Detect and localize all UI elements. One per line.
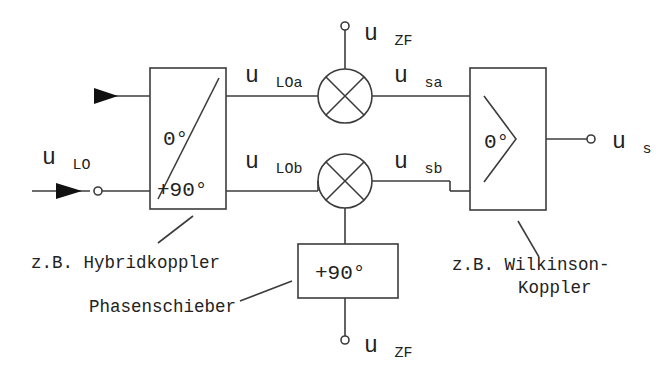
signal-label-zf-upper: u ZF: [364, 21, 412, 50]
signal-label-loa: u LOa: [245, 63, 302, 92]
hybrid-coupler-label-top: 0°: [163, 128, 188, 151]
signal-label-sb: u sb: [394, 149, 442, 178]
block-diagram-canvas: 0° +90° 0° +90° u LO u LOa u LOb u ZF u …: [0, 0, 671, 369]
signal-label-lob: u LOb: [245, 149, 302, 178]
hybrid-coupler-label-bottom: +90°: [157, 179, 207, 202]
input-arrow-lo-icon: [56, 183, 82, 199]
caption-hybrid-coupler: z.B. Hybridkoppler: [31, 253, 220, 273]
signal-label-lo-input: u LO: [42, 145, 90, 174]
leader-hybrid-coupler: [158, 216, 193, 243]
input-arrow-top-icon: [94, 88, 118, 104]
diagram-svg: 0° +90° 0° +90° u LO u LOa u LOb u ZF u …: [0, 0, 671, 369]
caption-phase-shifter: Phasenschieber: [89, 297, 236, 317]
caption-wilkinson-coupler-line2: Koppler: [518, 278, 592, 298]
terminal-s-output[interactable]: [587, 135, 595, 143]
leader-phase-shifter: [240, 281, 292, 301]
terminal-zf-upper[interactable]: [341, 22, 349, 30]
mixer-lower[interactable]: [318, 154, 372, 208]
caption-wilkinson-coupler-line1: z.B. Wilkinson-: [452, 255, 610, 275]
wilkinson-coupler-label: 0°: [484, 131, 509, 154]
signal-label-sa: u sa: [394, 63, 442, 92]
mixer-upper[interactable]: [318, 69, 372, 123]
terminal-lo-input[interactable]: [94, 187, 102, 195]
terminal-zf-lower[interactable]: [341, 336, 349, 344]
phase-shifter-label: +90°: [315, 262, 365, 285]
signal-label-s-output: u s: [612, 129, 651, 158]
signal-label-zf-lower: u ZF: [364, 333, 412, 362]
leader-wilkinson-coupler: [518, 221, 539, 257]
